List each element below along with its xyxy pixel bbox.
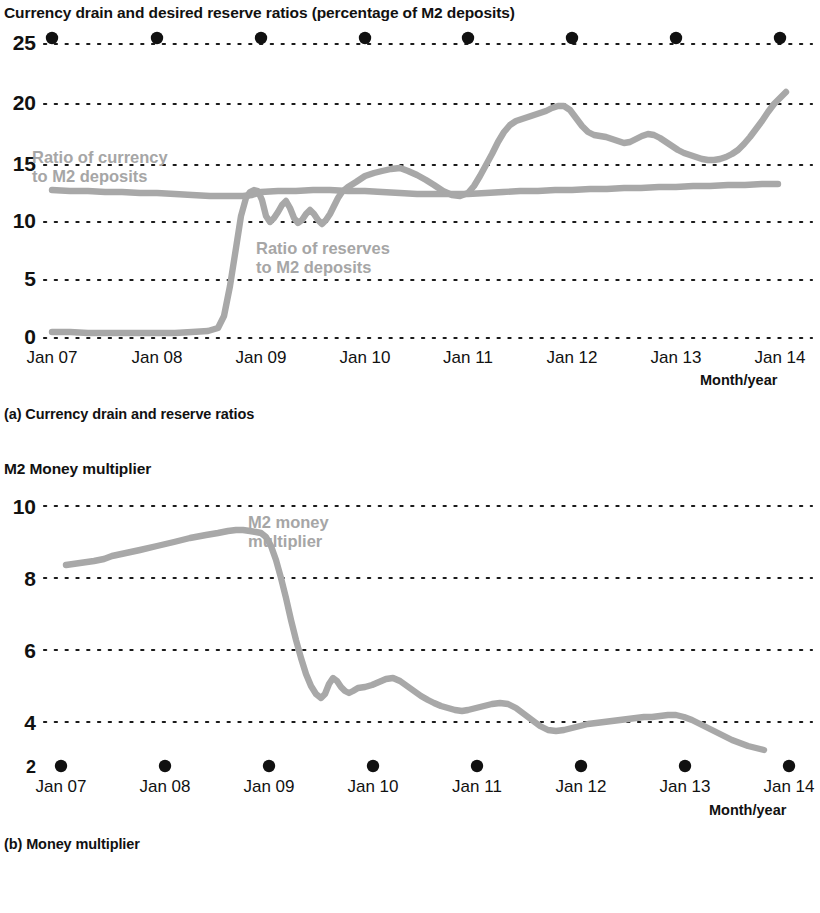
xtick-b-jan13: Jan 13 bbox=[640, 778, 730, 795]
ytick-b-10: 10 bbox=[0, 496, 36, 517]
xtick-b-jan10: Jan 10 bbox=[328, 778, 418, 795]
xtick-a-jan09: Jan 09 bbox=[216, 349, 306, 366]
series-m2-money-multiplier bbox=[66, 530, 764, 750]
panel-b-svg bbox=[0, 484, 820, 784]
xtick-dot-jan14 bbox=[774, 32, 786, 44]
xtick-dot-jan12 bbox=[566, 32, 578, 44]
panel-b-caption: (b) Money multiplier bbox=[4, 836, 140, 852]
annotation-m2-money-multiplier: M2 money multiplier bbox=[248, 513, 329, 552]
xtick-b-jan08: Jan 08 bbox=[120, 778, 210, 795]
panel-a-plot bbox=[0, 28, 820, 358]
panel-b-title: M2 Money multiplier bbox=[4, 460, 151, 478]
panel-a-xaxis-label: Month/year bbox=[700, 372, 777, 388]
ytick-a-20: 20 bbox=[0, 92, 36, 113]
xtick-dot-jan10 bbox=[359, 32, 371, 44]
xtick-dot-jan10 bbox=[367, 760, 379, 772]
ytick-a-15: 15 bbox=[0, 153, 36, 174]
xtick-b-jan11: Jan 11 bbox=[432, 778, 522, 795]
annotation-currency-ratio: Ratio of currency to M2 deposits bbox=[32, 148, 168, 187]
panel-b: M2 Money multiplier 10 8 6 4 2 M2 money … bbox=[0, 458, 820, 913]
xtick-a-jan11: Jan 11 bbox=[423, 349, 513, 366]
xtick-b-jan12: Jan 12 bbox=[536, 778, 626, 795]
ytick-a-5: 5 bbox=[0, 268, 36, 289]
xtick-a-jan12: Jan 12 bbox=[527, 349, 617, 366]
xtick-a-jan14: Jan 14 bbox=[735, 349, 820, 366]
xtick-dot-jan09 bbox=[255, 32, 267, 44]
series-reserves-ratio bbox=[52, 92, 786, 333]
xtick-dot-jan07 bbox=[55, 760, 67, 772]
xtick-b-jan07: Jan 07 bbox=[16, 778, 106, 795]
xtick-b-jan09: Jan 09 bbox=[224, 778, 314, 795]
panel-b-gridlines bbox=[44, 506, 812, 722]
xtick-dot-jan08 bbox=[159, 760, 171, 772]
xtick-dot-jan13 bbox=[679, 760, 691, 772]
ytick-a-0: 0 bbox=[0, 326, 36, 347]
xtick-dot-jan14 bbox=[783, 760, 795, 772]
xtick-a-jan13: Jan 13 bbox=[631, 349, 721, 366]
ytick-b-4: 4 bbox=[0, 712, 36, 733]
xtick-dot-jan11 bbox=[471, 760, 483, 772]
ytick-b-6: 6 bbox=[0, 640, 36, 661]
xtick-a-jan10: Jan 10 bbox=[320, 349, 410, 366]
ytick-b-8: 8 bbox=[0, 568, 36, 589]
panel-a-xtickdots bbox=[0, 28, 820, 58]
xtick-dot-jan11 bbox=[462, 32, 474, 44]
xtick-a-jan08: Jan 08 bbox=[112, 349, 202, 366]
annotation-reserves-ratio: Ratio of reserves to M2 deposits bbox=[256, 239, 390, 278]
xtick-dot-jan12 bbox=[575, 760, 587, 772]
panel-a-svg bbox=[0, 28, 820, 358]
xtick-dot-jan13 bbox=[670, 32, 682, 44]
panel-b-plot bbox=[0, 484, 820, 784]
panel-a: Currency drain and desired reserve ratio… bbox=[0, 0, 820, 440]
xtick-a-jan07: Jan 07 bbox=[7, 349, 97, 366]
ytick-a-10: 10 bbox=[0, 210, 36, 231]
panel-b-xaxis-label: Month/year bbox=[709, 802, 786, 818]
panel-a-title: Currency drain and desired reserve ratio… bbox=[4, 4, 515, 22]
xtick-dot-jan09 bbox=[263, 760, 275, 772]
panel-a-xtick-svg bbox=[0, 28, 820, 58]
xtick-b-jan14: Jan 14 bbox=[744, 778, 820, 795]
xtick-dot-jan07 bbox=[46, 32, 58, 44]
figure-page: { "figure": { "panel_a": { "title": "Cur… bbox=[0, 0, 820, 913]
panel-a-caption: (a) Currency drain and reserve ratios bbox=[4, 406, 254, 422]
xtick-dot-jan08 bbox=[151, 32, 163, 44]
